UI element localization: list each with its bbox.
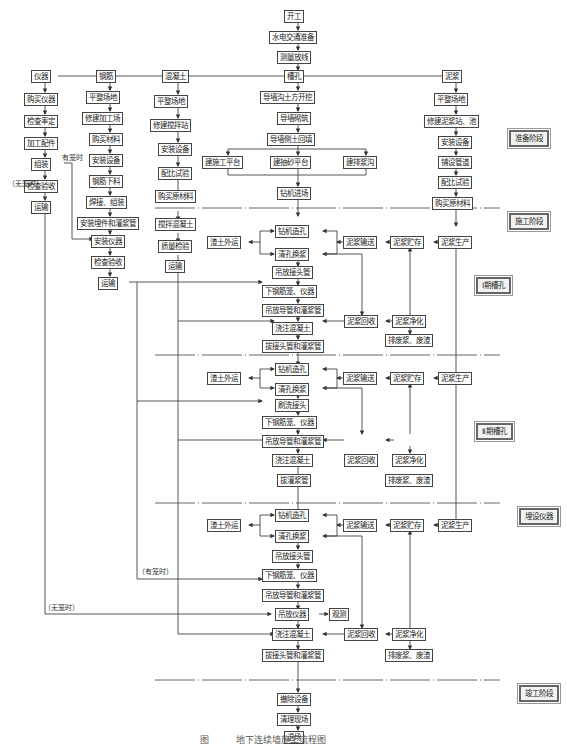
slurry-step: 安装设备: [438, 136, 472, 149]
p2-tremie: 吊放导管和灌浆管: [262, 435, 324, 448]
concrete-step: 运输: [165, 260, 185, 273]
p3-slurry-transport: 泥浆输送: [343, 519, 377, 532]
stage-phase2: Ⅱ期槽孔: [476, 423, 513, 440]
slurry-step: 修建泥浆站、池: [424, 115, 479, 128]
p1-spoil: 渣土外运: [207, 236, 241, 249]
p2-drill: 钻机造孔: [275, 363, 309, 376]
p1-cage: 下钢筋笼、仪器: [262, 285, 317, 298]
p1-slurry-recover: 泥浆回收: [344, 315, 378, 328]
slurry-step: 配比试验: [438, 176, 472, 189]
without-cage-note-2: （无笼时）: [44, 602, 79, 612]
p1-slurry-produce: 泥浆生产: [438, 236, 472, 249]
stage-completion: 竣工阶段: [519, 685, 559, 702]
p3-slurry-purify: 泥浆净化: [392, 628, 426, 641]
p2-spoil: 渣土外运: [207, 372, 241, 385]
p3-waste: 排废浆、废渣: [385, 649, 433, 662]
p3-instrument: 吊放仪器: [275, 608, 309, 621]
concrete-step: 安装设备: [158, 143, 192, 156]
concrete-step: 修建搅拌站: [150, 119, 191, 132]
concrete-step: 配比试验: [158, 167, 192, 180]
concrete-step: 质量检验: [158, 240, 192, 253]
platform-box: 建抽砂平台: [270, 156, 311, 169]
p1-slurry-transport: 泥浆输送: [343, 236, 377, 249]
rebar-header: 钢筋: [96, 70, 116, 83]
figure-caption: 图 地下连续墙施工流程图: [200, 733, 326, 746]
p3-cage: 下钢筋笼、仪器: [262, 569, 317, 582]
rebar-step: 修建加工场: [82, 112, 123, 125]
p3-slurry-recover: 泥浆回收: [344, 628, 378, 641]
p3-tremie: 吊放导管和灌浆管: [262, 589, 324, 602]
p3-joint: 吊放接头管: [272, 550, 313, 563]
p2-cage: 下钢筋笼、仪器: [262, 416, 317, 429]
p1-pour: 浇注混凝土: [272, 322, 313, 335]
p2-clean: 清孔换浆: [275, 383, 309, 396]
rebar-step: 安装设备: [89, 154, 123, 167]
instrument-step: 购买仪器: [24, 93, 58, 106]
instrument-step: 组装: [31, 158, 51, 171]
instrument-step: 检查率定: [24, 115, 58, 128]
stage-embed: 埋设仪器: [519, 508, 559, 525]
p1-drill: 钻机造孔: [275, 225, 309, 238]
p2-waste: 排废浆、废渣: [385, 474, 433, 487]
p2-slurry-produce: 泥浆生产: [438, 372, 472, 385]
concrete-step: 搅拌混凝土: [155, 218, 196, 231]
rebar-step: 钢筋下料: [89, 175, 123, 188]
start-box: 开工: [284, 10, 304, 23]
concrete-step: 平整场地: [154, 95, 188, 108]
rebar-step: 运输: [98, 277, 118, 290]
with-cage-note: 有笼时: [62, 152, 83, 162]
p3-slurry-store: 泥浆贮存: [390, 519, 424, 532]
p3-observe: 观测: [329, 608, 349, 621]
slurry-step: 平整场地: [434, 93, 468, 106]
rebar-step: 安装仪器: [91, 235, 125, 248]
p1-waste: 排废浆、废渣: [385, 334, 433, 347]
p3-spoil: 渣土外运: [207, 519, 241, 532]
rebar-step: 平整场地: [86, 91, 120, 104]
instrument-header: 仪器: [31, 70, 51, 83]
p2-slurry-purify: 泥浆净化: [392, 454, 426, 467]
utilities-prep-box: 水电交通准备: [269, 31, 317, 44]
p1-tremie: 吊放导管和灌浆管: [262, 304, 324, 317]
p2-slurry-store: 泥浆贮存: [390, 372, 424, 385]
concrete-header: 混凝土: [162, 70, 189, 83]
stage-prep: 准备阶段: [509, 130, 549, 147]
slurry-step: 购买原材料: [432, 197, 473, 210]
p3-drill: 钻机造孔: [275, 509, 309, 522]
p2-pull: 拔灌浆管: [277, 474, 311, 487]
p1-slurry-purify: 泥浆净化: [392, 315, 426, 328]
p1-clean: 清孔换浆: [275, 248, 309, 261]
p2-slurry-transport: 泥浆输送: [343, 372, 377, 385]
clean-site: 清理现场: [277, 713, 311, 726]
p1-pull: 拔接头管和灌浆管: [262, 340, 324, 353]
p3-clean: 清孔换浆: [275, 530, 309, 543]
trench-step: 导墙沟土方开挖: [260, 91, 315, 104]
p3-pull: 拔接头管和灌浆管: [262, 649, 324, 662]
concrete-step: 购买原材料: [155, 190, 196, 203]
with-cage-note-2: （有笼时）: [138, 566, 173, 576]
rig-arrival-box: 钻机进场: [277, 187, 311, 200]
instrument-step: 加工配件: [24, 137, 58, 150]
rebar-step: 焊接、组装: [86, 196, 127, 209]
instrument-step: 运输: [31, 201, 51, 214]
trench-header: 槽孔: [284, 70, 304, 83]
stage-construction: 施工阶段: [509, 213, 549, 230]
without-cage-note: （无笼时）: [8, 178, 43, 188]
p2-brush: 刷洗接头: [275, 399, 309, 412]
p1-slurry-store: 泥浆贮存: [390, 236, 424, 249]
trench-step: 导墙侧土回填: [267, 133, 315, 146]
rebar-step: 检查验收: [91, 256, 125, 269]
p2-slurry-recover: 泥浆回收: [344, 454, 378, 467]
p3-pour: 浇注混凝土: [272, 628, 313, 641]
platform-box: 建排浆沟: [343, 156, 377, 169]
rebar-step: 购买材料: [89, 133, 123, 146]
stage-phase1: Ⅰ期槽孔: [476, 277, 511, 294]
platform-box: 建施工平台: [202, 156, 243, 169]
survey-box: 测量放线: [277, 51, 311, 64]
p2-pour: 浇注混凝土: [272, 454, 313, 467]
p1-joint: 吊放接头管: [272, 266, 313, 279]
trench-step: 导墙砌筑: [277, 112, 311, 125]
slurry-header: 泥浆: [442, 70, 462, 83]
p3-slurry-produce: 泥浆生产: [438, 519, 472, 532]
slurry-step: 铺设管道: [438, 156, 472, 169]
